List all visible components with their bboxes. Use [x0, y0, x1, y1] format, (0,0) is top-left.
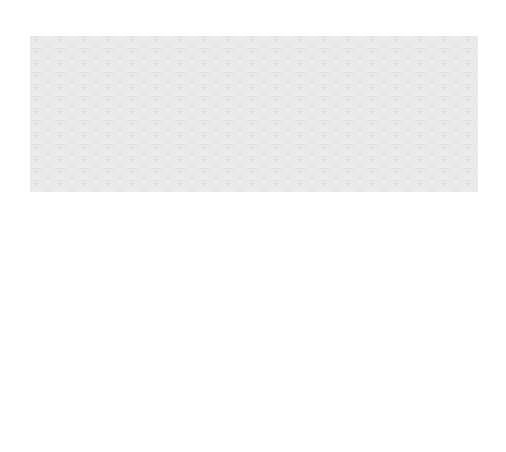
- route-map: [0, 0, 506, 452]
